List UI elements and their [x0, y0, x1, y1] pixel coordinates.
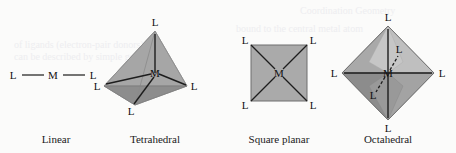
coordination-geometry-figure: of ligands (electron-pair donors) and ca…: [0, 0, 456, 153]
linear-ligand-label-left: L: [10, 69, 17, 81]
tetrahedral-ligand-label-left: L: [94, 80, 101, 92]
square-planar-ligand-label-bottom-left: L: [242, 99, 249, 111]
caption-tetrahedral: Tetrahedral: [130, 133, 180, 145]
tetrahedral-ligand-label-right: L: [191, 80, 198, 92]
tetrahedral-ligand-label-top: L: [152, 16, 159, 28]
bleed-text-line-4: bound to the central metal atom: [236, 23, 363, 34]
octahedral-ligand-label-front: L: [370, 89, 377, 101]
tetrahedral-ligand-label-front: L: [128, 105, 135, 117]
octahedral-ligand-label-top: L: [385, 11, 392, 23]
octahedral-ligand-label-left: L: [331, 67, 338, 79]
square-planar-ligand-label-bottom-right: L: [310, 99, 317, 111]
octahedral-ligand-label-right: L: [439, 67, 446, 79]
square-planar-ligand-label-top-left: L: [242, 34, 249, 46]
bleed-text-line-3: Coordination Geometry: [300, 5, 395, 16]
square-planar-ligand-label-top-right: L: [310, 34, 317, 46]
caption-linear: Linear: [42, 133, 71, 145]
caption-octahedral: Octahedral: [364, 133, 412, 145]
octahedral-metal-label: M: [383, 67, 393, 79]
tetrahedral-metal-label: M: [150, 67, 160, 79]
octahedral-ligand-label-back: L: [396, 43, 403, 55]
square-planar-metal-label: M: [274, 67, 284, 79]
geometry-diagram-canvas: of ligands (electron-pair donors) and ca…: [0, 0, 456, 153]
linear-metal-label: M: [48, 69, 58, 81]
caption-square-planar: Square planar: [249, 133, 310, 145]
